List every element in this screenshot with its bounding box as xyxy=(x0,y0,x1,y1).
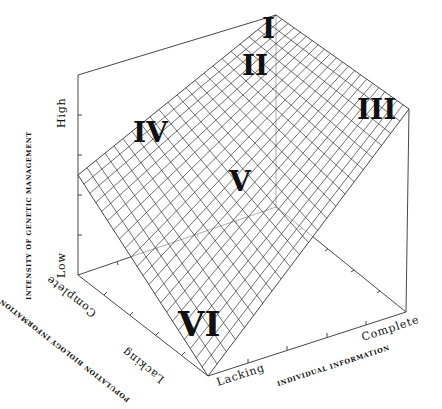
region-label-i: I xyxy=(262,12,275,45)
z-axis-title: INTENSITY OF GENETIC MANAGEMENT xyxy=(25,131,33,300)
y-axis-lacking-label: Lacking xyxy=(119,345,166,386)
region-label-iv: IV xyxy=(133,116,169,149)
region-label-vi: VI xyxy=(177,304,220,344)
x-axis-complete-label: Complete xyxy=(360,313,421,344)
x-axis-title: INDIVIDUAL INFORMATION xyxy=(276,344,391,388)
right-vertical-edge xyxy=(406,109,409,312)
region-label-iii: III xyxy=(357,93,396,126)
surface-diagram: I II III IV V VI INTENSITY OF GENETIC MA… xyxy=(0,0,442,409)
z-axis-low-label: Low xyxy=(55,252,68,278)
z-axis-high-label: High xyxy=(55,98,68,128)
y-axis-title: POPULATION BIOLOGY INFORMATION xyxy=(0,297,131,404)
region-label-v: V xyxy=(228,165,252,198)
y-axis-complete-label: Complete xyxy=(44,273,99,320)
region-label-ii: II xyxy=(242,49,268,82)
